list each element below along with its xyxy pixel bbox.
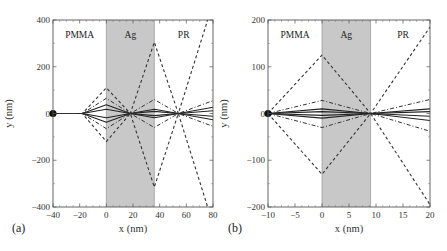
y-tick-label: 0 <box>46 109 51 119</box>
x-tick-label: 20 <box>129 210 139 220</box>
x-tick-label: 40 <box>155 210 165 220</box>
region-label-pmma: PMMA <box>280 30 309 40</box>
y-tick-label: −200 <box>31 155 50 165</box>
x-tick-label: 5 <box>347 210 352 220</box>
panel-a: −40−20020406080−400−2000200400PMMAAgPRx … <box>3 15 218 235</box>
x-axis-label: x (nm) <box>119 223 148 235</box>
x-tick-label: −20 <box>73 210 88 220</box>
y-tick-label: 100 <box>252 62 266 72</box>
x-tick-label: 15 <box>399 210 409 220</box>
y-axis-label: y (nm) <box>3 99 15 128</box>
x-tick-label: 10 <box>372 210 382 220</box>
y-tick-label: 200 <box>37 62 51 72</box>
region-label-ag: Ag <box>340 30 352 40</box>
panel-label: (b) <box>228 221 242 235</box>
panel-b: −10−505101520−200−1000100200PMMAAgPRx (n… <box>218 15 435 235</box>
region-label-pr: PR <box>397 30 409 40</box>
y-tick-label: 400 <box>37 15 51 25</box>
x-tick-label: 80 <box>209 210 219 220</box>
x-tick-label: 0 <box>104 210 109 220</box>
region-label-pr: PR <box>178 30 190 40</box>
y-tick-label: 0 <box>261 109 266 119</box>
x-axis-label: x (nm) <box>335 223 364 235</box>
y-tick-label: −400 <box>31 202 50 212</box>
y-tick-label: −200 <box>246 202 265 212</box>
x-tick-label: 20 <box>426 210 436 220</box>
y-tick-label: 200 <box>252 15 266 25</box>
figure: −40−20020406080−400−2000200400PMMAAgPRx … <box>0 0 447 251</box>
x-tick-label: 0 <box>320 210 325 220</box>
region-label-ag: Ag <box>125 30 137 40</box>
region-label-pmma: PMMA <box>65 30 94 40</box>
y-tick-label: −100 <box>246 155 265 165</box>
x-tick-label: 60 <box>182 210 192 220</box>
x-tick-label: −5 <box>290 210 300 220</box>
y-axis-label: y (nm) <box>218 99 230 128</box>
panel-label: (a) <box>12 221 25 235</box>
